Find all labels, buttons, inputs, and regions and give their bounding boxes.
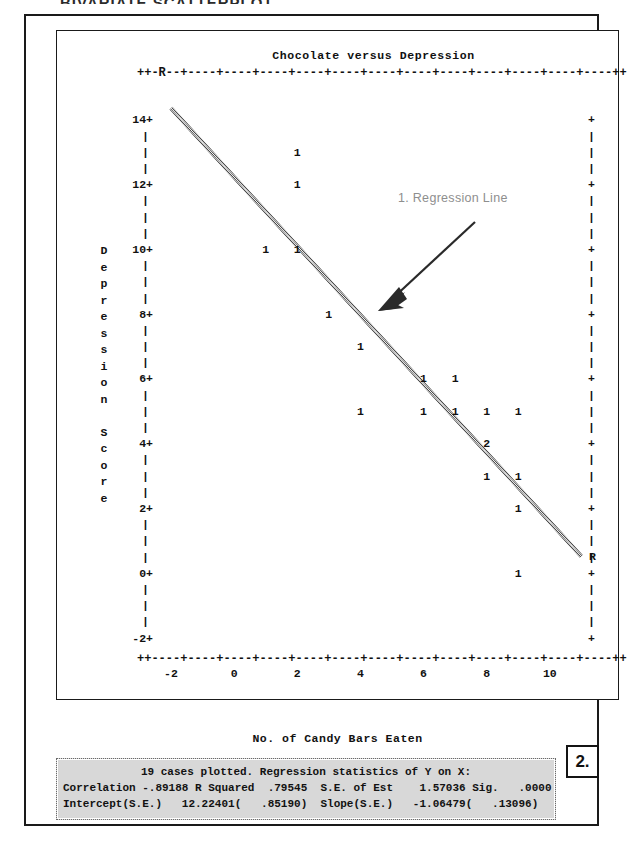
stats-line-cases: 19 cases plotted. Regression statistics … (57, 764, 555, 780)
regression-line (57, 31, 620, 701)
callout-stats-panel-label: 2. (566, 745, 599, 778)
stats-line-intercept: Intercept(S.E.) 12.22401( .85190) Slope(… (57, 796, 555, 812)
callout-regression-line-label: 1. Regression Line (398, 191, 508, 205)
regression-line-svg (57, 31, 620, 701)
stats-line-correlation: Correlation -.89188 R Squared .79545 S.E… (57, 780, 555, 796)
x-axis-caption: No. of Candy Bars Eaten (56, 732, 619, 745)
page-frame: Chocolate versus Depression ++-R--+----+… (24, 14, 599, 826)
scan-top-cropped-text: BIVARIATE SCATTERPLOT (60, 0, 480, 4)
callout-arrow-icon (347, 216, 487, 326)
plot-frame: Chocolate versus Depression ++-R--+----+… (56, 30, 619, 700)
regression-statistics-panel: 19 cases plotted. Regression statistics … (56, 758, 556, 820)
